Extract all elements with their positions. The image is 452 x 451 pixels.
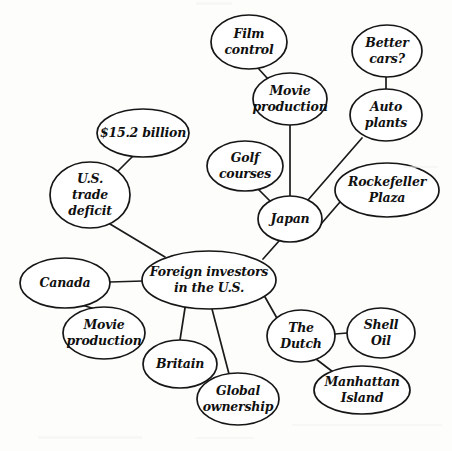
node-film[interactable]: Filmcontrol [211, 15, 287, 69]
node-movie_jp[interactable]: Movieproduction [252, 73, 327, 125]
node-japan[interactable]: Japan [258, 196, 322, 242]
node-manhattan[interactable]: ManhattanIsland [314, 366, 410, 414]
edge-hub-to-dutch [265, 297, 278, 320]
node-label-auto: Autoplants [365, 99, 407, 130]
node-label-britain: Britain [155, 356, 204, 371]
edge-japan-to-rockefeller [321, 202, 340, 224]
edge-hub-to-japan [263, 241, 279, 259]
node-golf[interactable]: Golfcourses [207, 141, 283, 191]
node-rockefeller[interactable]: RockefellerPlaza [335, 163, 439, 217]
node-cars[interactable]: Bettercars? [352, 25, 422, 77]
edge-hub-to-britain [180, 308, 185, 340]
concept-map-svg: Foreign investorsin the U.S.U.S.tradedef… [0, 0, 452, 451]
edge-movie_jp-to-film [258, 68, 268, 79]
edge-japan-to-golf [258, 189, 271, 202]
node-billion[interactable]: $15.2 billion [97, 109, 189, 157]
node-global[interactable]: Globalownership [197, 373, 279, 425]
edge-dutch-to-manhattan [316, 359, 333, 372]
node-deficit[interactable]: U.S.tradedeficit [50, 162, 130, 228]
node-label-canada: Canada [40, 275, 91, 290]
node-label-japan: Japan [269, 211, 310, 226]
node-label-cars: Bettercars? [364, 35, 410, 66]
node-canada[interactable]: Canada [20, 258, 110, 308]
edge-dutch-to-shell [335, 333, 347, 334]
node-dutch[interactable]: TheDutch [267, 310, 335, 362]
node-shell[interactable]: ShellOil [347, 308, 415, 358]
concept-map-canvas: Foreign investorsin the U.S.U.S.tradedef… [0, 0, 452, 451]
node-hub[interactable]: Foreign investorsin the U.S. [142, 251, 276, 309]
node-auto[interactable]: Autoplants [350, 89, 422, 141]
edge-deficit-to-billion [117, 156, 133, 172]
edge-hub-to-canada [110, 281, 143, 282]
node-label-billion: $15.2 billion [100, 125, 186, 140]
node-britain[interactable]: Britain [143, 340, 217, 388]
edge-hub-to-deficit [110, 224, 165, 257]
node-group: Foreign investorsin the U.S.U.S.tradedef… [20, 15, 439, 425]
node-movie_ca[interactable]: Movieproduction [63, 307, 145, 359]
